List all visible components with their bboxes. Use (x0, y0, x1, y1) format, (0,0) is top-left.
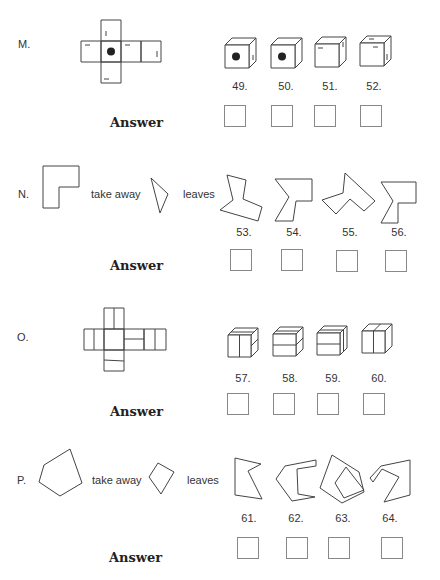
option-54-shape-icon (275, 179, 313, 222)
option-51-cube-icon (314, 36, 348, 68)
option-59-cube-icon (316, 325, 349, 356)
answer-checkbox-61[interactable] (237, 537, 259, 559)
answer-label: Answer (110, 404, 163, 419)
option-number: 63. (328, 512, 358, 524)
answer-checkbox-54[interactable] (281, 249, 303, 271)
question-label: N. (18, 188, 29, 200)
answer-label: Answer (109, 550, 162, 565)
answer-checkbox-49[interactable] (224, 105, 246, 127)
question-label: M. (18, 38, 30, 50)
take-away-text: take away (92, 474, 142, 486)
answer-checkbox-60[interactable] (363, 393, 385, 415)
option-number: 60. (364, 372, 394, 384)
answer-checkbox-57[interactable] (227, 393, 249, 415)
leaves-text: leaves (187, 474, 219, 486)
answer-checkbox-50[interactable] (271, 105, 293, 127)
option-61-shape-icon (235, 458, 263, 500)
option-number: 61. (234, 512, 264, 524)
answer-checkbox-52[interactable] (360, 105, 382, 127)
question-label: O. (17, 331, 29, 343)
option-number: 54. (279, 226, 309, 238)
answer-checkbox-53[interactable] (230, 249, 252, 271)
option-number: 51. (315, 80, 345, 92)
option-number: 57. (228, 372, 258, 384)
option-number: 50. (271, 80, 301, 92)
option-52-cube-icon (359, 35, 393, 67)
option-number: 62. (281, 512, 311, 524)
pentagon-icon (39, 449, 83, 497)
option-number: 53. (229, 226, 259, 238)
option-number: 49. (225, 80, 255, 92)
question-label: P. (17, 474, 26, 486)
cube-net-icon (80, 20, 165, 85)
option-number: 59. (318, 372, 348, 384)
option-56-shape-icon (381, 182, 418, 224)
option-number: 52. (359, 80, 389, 92)
option-60-cube-icon (361, 323, 394, 354)
option-50-cube-icon (270, 37, 304, 69)
answer-label: Answer (110, 258, 163, 273)
answer-checkbox-51[interactable] (314, 105, 336, 127)
option-53-shape-icon (220, 175, 263, 223)
l-shape-icon (43, 166, 80, 209)
leaves-text: leaves (183, 188, 215, 200)
answer-checkbox-59[interactable] (317, 393, 339, 415)
answer-checkbox-63[interactable] (328, 537, 350, 559)
answer-checkbox-62[interactable] (286, 537, 308, 559)
diamond-icon (149, 463, 175, 495)
option-49-cube-icon (224, 37, 258, 69)
option-number: 56. (384, 226, 414, 238)
option-58-cube-icon (272, 326, 305, 357)
answer-checkbox-64[interactable] (381, 537, 403, 559)
option-number: 64. (375, 512, 405, 524)
answer-label: Answer (110, 115, 163, 130)
option-62-shape-icon (276, 460, 318, 502)
option-55-shape-icon (322, 173, 376, 216)
option-57-cube-icon (227, 327, 260, 358)
option-63-shape-icon (320, 455, 365, 504)
answer-checkbox-56[interactable] (385, 250, 407, 272)
option-number: 55. (335, 226, 365, 238)
option-number: 58. (275, 372, 305, 384)
cube-net-icon (84, 308, 168, 372)
answer-checkbox-58[interactable] (273, 393, 295, 415)
option-64-shape-icon (370, 460, 412, 503)
take-away-text: take away (91, 188, 141, 200)
triangle-icon (151, 178, 169, 214)
answer-checkbox-55[interactable] (336, 250, 358, 272)
